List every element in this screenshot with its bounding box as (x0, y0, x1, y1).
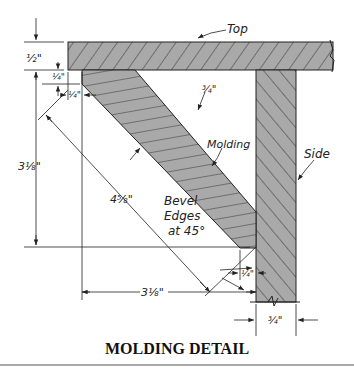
label-top: Top (227, 22, 248, 36)
dim-vertical-height: 3⅛" (18, 160, 41, 173)
dim-inset-vertical: ¼" (52, 72, 65, 82)
side-board (250, 70, 300, 306)
dim-inset-horizontal: ¼" (68, 90, 81, 100)
diagram-title: MOLDING DETAIL (105, 340, 249, 357)
molding-detail-diagram: Top Molding Side Bevel Edges at 45° ½" ¼… (0, 0, 354, 380)
top-board (68, 40, 334, 72)
label-bevel-3: at 45° (168, 224, 205, 238)
label-bevel-1: Bevel (164, 194, 198, 208)
dim-side-thickness: ¾" (268, 315, 282, 326)
label-bevel-2: Edges (164, 209, 200, 223)
dim-top-thickness: ½" (26, 52, 42, 65)
label-molding: Molding (207, 138, 250, 151)
dim-horizontal-width: 3⅛" (141, 286, 164, 299)
dim-side-inset: ¼" (241, 269, 254, 279)
dim-diagonal-length: 4⅝" (110, 193, 133, 206)
dim-molding-thickness: ¾" (202, 84, 216, 95)
label-side: Side (304, 147, 330, 161)
